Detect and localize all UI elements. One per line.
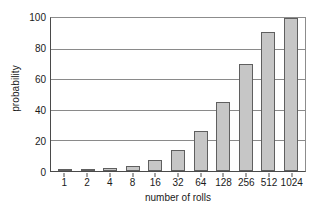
plot-area [50, 17, 306, 172]
bar-slot [279, 18, 302, 171]
x-tick-label: 128 [212, 176, 235, 192]
x-tick-label: 4 [98, 176, 121, 192]
x-tick-label: 32 [167, 176, 190, 192]
bar-chart-figure: probability 0 20 40 60 80 100 1248163264… [0, 0, 320, 214]
x-tick-label: 8 [121, 176, 144, 192]
bar-slot [167, 18, 190, 171]
bar [103, 168, 117, 171]
y-tick-label: 20 [35, 136, 46, 147]
y-tick-label: 100 [29, 12, 46, 23]
x-tick-label: 2 [76, 176, 99, 192]
bar [216, 102, 230, 171]
bar-slot [212, 18, 235, 171]
bar-slot [234, 18, 257, 171]
bar-slot [99, 18, 122, 171]
bar [239, 64, 253, 171]
bar-group [51, 18, 305, 171]
x-tick-label: 512 [258, 176, 281, 192]
bar [148, 160, 162, 171]
x-axis-title: number of rolls [50, 192, 306, 203]
x-axis-tick-labels: 12481632641282565121024 [50, 176, 306, 192]
bar [126, 166, 140, 171]
bar [81, 169, 95, 171]
bar-slot [77, 18, 100, 171]
x-tick-label: 1024 [280, 176, 303, 192]
bar [171, 150, 185, 171]
y-tick-label: 0 [40, 167, 46, 178]
bar [58, 169, 72, 171]
bar-slot [122, 18, 145, 171]
bar-slot [54, 18, 77, 171]
x-tick-label: 64 [189, 176, 212, 192]
x-tick-label: 16 [144, 176, 167, 192]
y-axis-title-text: probability [10, 65, 21, 112]
x-tick-label: 1 [53, 176, 76, 192]
bar-slot [189, 18, 212, 171]
y-tick-label: 60 [35, 74, 46, 85]
bar-slot [144, 18, 167, 171]
y-axis-title: probability [8, 0, 22, 176]
x-tick-label: 256 [235, 176, 258, 192]
bar [261, 32, 275, 171]
bar [284, 18, 298, 171]
bar [194, 131, 208, 171]
bar-slot [257, 18, 280, 171]
y-tick-label: 40 [35, 105, 46, 116]
y-tick-label: 80 [35, 43, 46, 54]
y-axis-tick-labels: 0 20 40 60 80 100 [22, 17, 46, 172]
